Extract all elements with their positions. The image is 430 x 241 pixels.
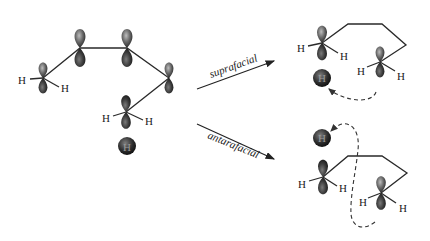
- p-orbital-c4: [165, 63, 174, 94]
- carbon-chain-bond: [322, 24, 406, 62]
- hydrogen-label: H: [61, 82, 69, 94]
- antarafacial-arrow: antarafacial: [197, 124, 274, 160]
- suprafacial-product: H H H H H: [297, 24, 406, 100]
- antarafacial-label: antarafacial: [206, 129, 261, 161]
- hydrogen-label: H: [298, 178, 306, 190]
- hydrogen-label: H: [399, 202, 407, 214]
- hydrogen-label: H: [318, 132, 326, 144]
- hydrogen-label: H: [339, 182, 347, 194]
- hydrogen-label: H: [123, 141, 131, 153]
- hydrogen-label: H: [102, 112, 110, 124]
- hydrogen-label: H: [397, 70, 405, 82]
- hydrogen-label: H: [18, 74, 26, 86]
- hydrogen-label: H: [318, 72, 326, 84]
- diagram-canvas: H H H H H suprafacial antarafacial: [0, 0, 430, 241]
- hydrogen-label: H: [145, 115, 153, 127]
- suprafacial-arrow: suprafacial: [197, 51, 274, 89]
- antarafacial-product: H H H H H: [298, 124, 407, 227]
- hydrogen-migration-path: [329, 89, 376, 100]
- hydrogen-label: H: [357, 65, 365, 77]
- hydrogen-label: H: [297, 42, 305, 54]
- carbon-chain-bond: [323, 156, 407, 193]
- hydrogen-label: H: [340, 50, 348, 62]
- reactant-molecule: H H H H H: [18, 29, 173, 155]
- carbon-chain-bond: [43, 48, 169, 112]
- hydrogen-label: H: [359, 196, 367, 208]
- hydrogen-migration-path: [331, 124, 375, 227]
